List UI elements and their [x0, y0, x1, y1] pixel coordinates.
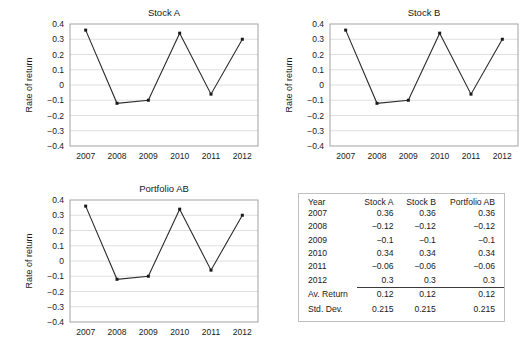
table-head: Year Stock A Stock B Portfolio AB: [299, 194, 504, 207]
table-row: 2009−0.1−0.1−0.1: [299, 233, 504, 246]
y-axis-label: Rate of return: [24, 57, 34, 112]
series-line: [346, 30, 503, 103]
cell-portfolio-ab: 0.34: [441, 247, 504, 260]
cell-portfolio-ab: 0.36: [441, 207, 504, 220]
x-tick-label: 2012: [493, 151, 512, 161]
y-tick-label: −0.2: [307, 111, 324, 121]
y-tick-label: 0.2: [52, 226, 64, 236]
table-row: 20100.340.340.34: [299, 247, 504, 260]
y-tick-label: −0.2: [47, 287, 64, 297]
table-row: 20120.30.30.3: [299, 273, 504, 287]
data-point-marker: [178, 208, 181, 211]
chart-title: Stock A: [148, 7, 181, 18]
cell-year: 2011: [299, 260, 357, 273]
table-header-row: Year Stock A Stock B Portfolio AB: [299, 194, 504, 207]
summary-label: Std. Dev.: [299, 302, 357, 321]
data-point-marker: [116, 278, 119, 281]
x-tick-label: 2009: [139, 151, 158, 161]
chart-svg-stock-a: Stock ARate of return0.40.30.20.10−0.1−0…: [18, 4, 263, 176]
cell-year: 2007: [299, 207, 357, 220]
data-point-marker: [178, 32, 181, 35]
cell-stock-b: 0.3: [399, 273, 441, 287]
x-tick-label: 2007: [336, 151, 355, 161]
data-point-marker: [116, 102, 119, 105]
y-axis-label: Rate of return: [24, 233, 34, 288]
cell-year: 2009: [299, 233, 357, 246]
cell-year: 2010: [299, 247, 357, 260]
cell-year: 2008: [299, 220, 357, 233]
table-row: 20070.360.360.36: [299, 207, 504, 220]
table-summary-row: Av. Return0.120.120.12: [299, 287, 504, 301]
cell-stock-b: −0.1: [399, 233, 441, 246]
cell-stock-b: 0.36: [399, 207, 441, 220]
y-tick-label: 0.4: [52, 19, 64, 29]
y-tick-label: 0.2: [52, 50, 64, 60]
summary-label: Av. Return: [299, 287, 357, 301]
chart-svg-stock-b: Stock BRate of return0.40.30.20.10−0.1−0…: [278, 4, 520, 176]
cell-portfolio-ab: −0.12: [441, 220, 504, 233]
cell-stock-a: −0.1: [357, 233, 399, 246]
y-tick-label: 0.2: [312, 50, 324, 60]
y-tick-label: −0.4: [307, 141, 324, 151]
data-point-marker: [438, 32, 441, 35]
cell-year: 2012: [299, 273, 357, 287]
y-tick-label: −0.3: [47, 302, 64, 312]
data-point-marker: [210, 269, 213, 272]
returns-data-table: Year Stock A Stock B Portfolio AB 20070.…: [298, 193, 505, 322]
chart-title: Portfolio AB: [139, 183, 189, 194]
y-tick-label: −0.3: [47, 126, 64, 136]
chart-svg-portfolio-ab: Portfolio ABRate of return0.40.30.20.10−…: [18, 180, 263, 352]
y-tick-label: 0.4: [312, 19, 324, 29]
header-portfolio-ab: Portfolio AB: [441, 194, 504, 207]
x-tick-label: 2008: [368, 151, 387, 161]
x-tick-label: 2010: [170, 151, 189, 161]
x-tick-label: 2011: [202, 327, 221, 337]
x-tick-label: 2012: [233, 327, 252, 337]
data-point-marker: [344, 29, 347, 32]
data-point-marker: [147, 275, 150, 278]
y-tick-label: 0: [59, 80, 64, 90]
y-tick-label: −0.1: [47, 95, 64, 105]
series-line: [86, 30, 243, 103]
cell-stock-b: 0.12: [399, 287, 441, 301]
cell-portfolio-ab: −0.06: [441, 260, 504, 273]
y-axis-label: Rate of return: [284, 57, 294, 112]
data-point-marker: [84, 205, 87, 208]
y-tick-label: 0.4: [52, 195, 64, 205]
header-stock-a: Stock A: [357, 194, 399, 207]
x-tick-label: 2010: [430, 151, 449, 161]
x-tick-label: 2011: [202, 151, 221, 161]
cell-stock-a: 0.3: [357, 273, 399, 287]
chart-stock-b: Stock BRate of return0.40.30.20.10−0.1−0…: [278, 4, 520, 176]
data-point-marker: [147, 99, 150, 102]
cell-portfolio-ab: 0.12: [441, 287, 504, 301]
data-point-marker: [376, 102, 379, 105]
cell-stock-b: 0.215: [399, 302, 441, 321]
x-tick-label: 2009: [399, 151, 418, 161]
cell-stock-a: −0.06: [357, 260, 399, 273]
cell-stock-a: 0.36: [357, 207, 399, 220]
data-point-marker: [501, 38, 504, 41]
cell-stock-a: 0.34: [357, 247, 399, 260]
chart-stock-a: Stock ARate of return0.40.30.20.10−0.1−0…: [18, 4, 263, 176]
chart-portfolio-ab: Portfolio ABRate of return0.40.30.20.10−…: [18, 180, 263, 352]
data-point-marker: [84, 29, 87, 32]
y-tick-label: −0.4: [47, 317, 64, 327]
x-tick-label: 2007: [76, 151, 95, 161]
data-point-marker: [407, 99, 410, 102]
header-year: Year: [299, 194, 357, 207]
y-tick-label: −0.4: [47, 141, 64, 151]
y-tick-label: 0: [319, 80, 324, 90]
data-point-marker: [241, 214, 244, 217]
x-tick-label: 2011: [462, 151, 481, 161]
table-body: 20070.360.360.362008−0.12−0.12−0.122009−…: [299, 207, 504, 321]
y-tick-label: −0.1: [47, 271, 64, 281]
x-tick-label: 2007: [76, 327, 95, 337]
series-line: [86, 206, 243, 279]
x-tick-label: 2008: [108, 151, 127, 161]
y-tick-label: 0.1: [52, 65, 64, 75]
header-stock-b: Stock B: [399, 194, 441, 207]
chart-title: Stock B: [408, 7, 441, 18]
y-tick-label: 0.1: [312, 65, 324, 75]
y-tick-label: 0.1: [52, 241, 64, 251]
